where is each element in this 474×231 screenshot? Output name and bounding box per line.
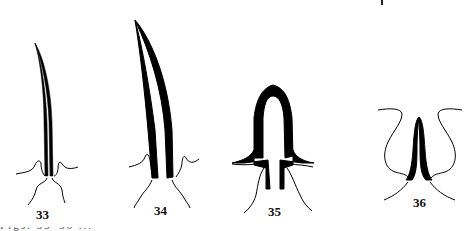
figure-34-drawing bbox=[129, 20, 199, 208]
figure-label-33: 33 bbox=[36, 207, 49, 223]
figure-35-drawing bbox=[232, 85, 314, 213]
figure-label-35: 35 bbox=[268, 204, 281, 220]
figure-label-34: 34 bbox=[154, 203, 167, 219]
figure-caption-text: Figs. 33–36 ... bbox=[0, 227, 474, 231]
clipped-mark bbox=[381, 0, 383, 5]
figure-drawings bbox=[0, 0, 474, 231]
figure-36-drawing bbox=[378, 109, 462, 200]
figure-label-36: 36 bbox=[413, 195, 426, 211]
figure-caption-clipped: Figs. 33–36 ... bbox=[0, 227, 474, 231]
figure-33-drawing bbox=[16, 43, 78, 205]
